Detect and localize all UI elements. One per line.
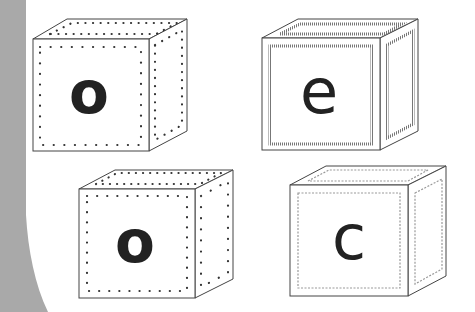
block-letter: o bbox=[69, 59, 109, 127]
letter-block-1: o bbox=[33, 19, 187, 151]
block-letter: c bbox=[332, 201, 366, 274]
block-letter: e bbox=[300, 55, 338, 128]
block-letter: o bbox=[115, 208, 155, 276]
letter-block-4: c bbox=[290, 166, 446, 296]
letter-block-2: e bbox=[262, 19, 418, 150]
letter-block-3: o bbox=[79, 170, 233, 298]
